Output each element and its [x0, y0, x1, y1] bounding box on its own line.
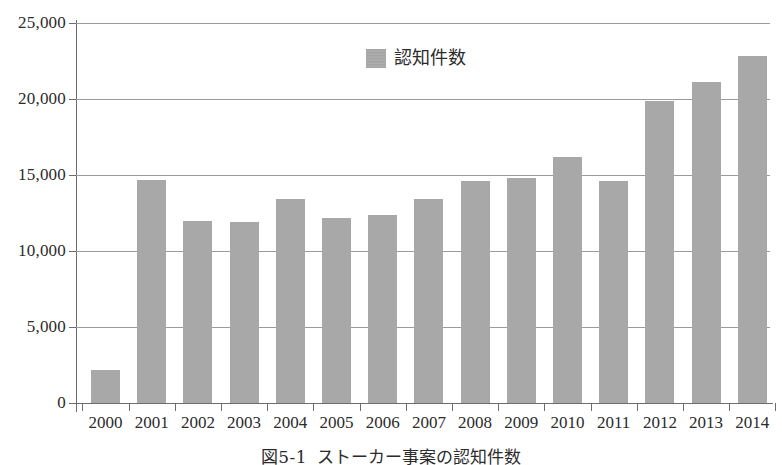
x-tick-mark-2012: [637, 403, 638, 411]
x-tick-mark-2011: [591, 403, 592, 411]
bar-2012: [645, 101, 674, 403]
chart-legend: 認知件数: [366, 48, 466, 68]
x-tick-mark-2014: [729, 403, 730, 411]
x-tick-mark-2013: [683, 403, 684, 411]
y-tick-label-5000: 5,000: [27, 318, 66, 335]
bar-2010: [553, 157, 582, 403]
y-tick-mark-15000: [69, 175, 76, 176]
x-tick-mark-2005: [313, 403, 314, 411]
x-tick-mark-2000: [82, 403, 83, 411]
bar-2000: [91, 370, 120, 403]
figure-container: 05,00010,00015,00020,00025,000 200020012…: [0, 0, 782, 465]
bar-2001: [137, 180, 166, 403]
bar-2005: [322, 218, 351, 403]
caption-number: 図5-1: [261, 447, 307, 465]
legend-label: 認知件数: [394, 48, 466, 68]
x-tick-mark-end: [775, 403, 776, 411]
bar-2008: [461, 181, 490, 403]
x-tick-label-2014: 2014: [722, 413, 782, 433]
plot-area: [76, 23, 770, 403]
bar-2006: [368, 215, 397, 403]
x-tick-mark-2004: [267, 403, 268, 411]
x-tick-mark-2006: [360, 403, 361, 411]
y-tick-label-20000: 20,000: [18, 90, 66, 107]
bar-2009: [507, 178, 536, 403]
bar-2011: [599, 181, 628, 403]
y-tick-mark-10000: [69, 251, 76, 252]
y-axis-labels: 05,00010,00015,00020,00025,000: [0, 0, 66, 465]
y-tick-mark-25000: [69, 23, 76, 24]
y-tick-label-0: 0: [57, 394, 66, 411]
bar-2013: [692, 82, 721, 403]
x-axis-line: [73, 403, 773, 404]
legend-swatch-icon: [366, 49, 386, 68]
bar-2004: [276, 199, 305, 403]
y-tick-mark-0: [69, 403, 76, 404]
gridline-25000: [76, 23, 770, 24]
x-tick-mark-2002: [175, 403, 176, 411]
figure-caption: 図5-1ストーカー事案の認知件数: [0, 447, 782, 465]
x-tick-mark-2010: [544, 403, 545, 411]
bar-2003: [230, 222, 259, 403]
bar-2002: [183, 221, 212, 403]
y-tick-label-25000: 25,000: [18, 14, 66, 31]
x-tick-mark-2008: [452, 403, 453, 411]
bar-2007: [414, 199, 443, 403]
x-tick-mark-2007: [406, 403, 407, 411]
x-tick-mark-2009: [498, 403, 499, 411]
x-tick-mark-2003: [221, 403, 222, 411]
y-tick-label-10000: 10,000: [18, 242, 66, 259]
y-tick-mark-5000: [69, 327, 76, 328]
x-tick-mark-2001: [129, 403, 130, 411]
y-tick-mark-20000: [69, 99, 76, 100]
y-tick-label-15000: 15,000: [18, 166, 66, 183]
caption-title: ストーカー事案の認知件数: [317, 447, 521, 465]
bar-2014: [738, 56, 767, 403]
